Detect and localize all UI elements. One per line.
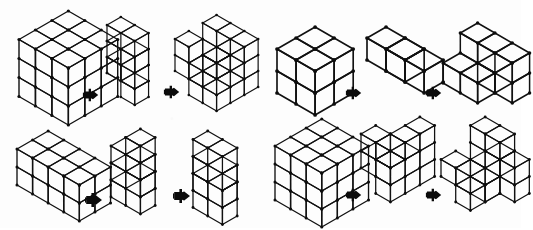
arrow-right-icon [345,186,363,204]
cube-assembly-svg [438,114,532,214]
cube-assembly-svg [272,116,372,230]
arrow-right-icon [425,186,443,204]
cube-assembly-solid-3x3x3-cube [272,116,372,230]
cube-assembly-cross-notch-piece [438,114,532,214]
